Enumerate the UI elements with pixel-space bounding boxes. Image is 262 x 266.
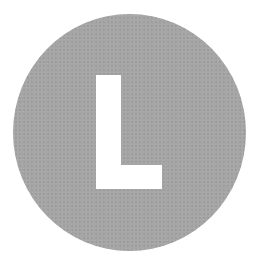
letter-l-foot <box>96 165 162 189</box>
letter-l-icon: L <box>0 0 262 266</box>
badge-letter: L <box>0 0 1 1</box>
